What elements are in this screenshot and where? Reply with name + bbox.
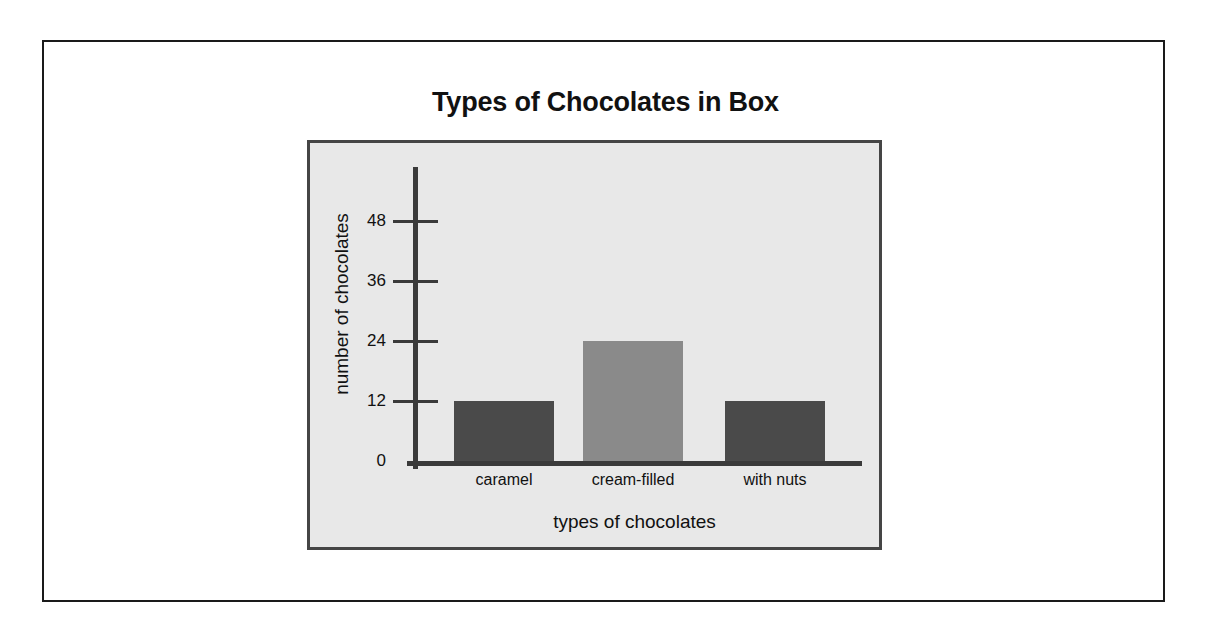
y-axis-tick-label: 0 [326,452,386,469]
x-axis-line [407,461,862,466]
plot-area: number of chocolates 012243648 caramelcr… [310,143,879,547]
bar-chart-figure: Types of Chocolates in Box number of cho… [44,42,1167,600]
figure-outer-frame: Types of Chocolates in Box number of cho… [42,40,1165,602]
y-axis-tick-mark [393,280,438,283]
y-axis-tick-mark [393,340,438,343]
y-axis-tick-mark [393,400,438,403]
y-axis-line [413,167,418,469]
y-axis-tick-mark [393,220,438,223]
x-axis-label-caramel: caramel [434,471,574,489]
y-axis-tick-label: 12 [326,392,386,409]
y-axis-tick-label: 24 [326,332,386,349]
plot-panel: number of chocolates 012243648 caramelcr… [307,140,882,550]
y-axis-tick-label: 48 [326,212,386,229]
bar-cream-filled [583,341,683,461]
chart-title: Types of Chocolates in Box [44,87,1167,118]
y-axis-tick-label: 36 [326,272,386,289]
x-axis-label-with-nuts: with nuts [705,471,845,489]
x-axis-title: types of chocolates [407,511,862,533]
bar-caramel [454,401,554,461]
bar-with-nuts [725,401,825,461]
x-axis-label-cream-filled: cream-filled [563,471,703,489]
